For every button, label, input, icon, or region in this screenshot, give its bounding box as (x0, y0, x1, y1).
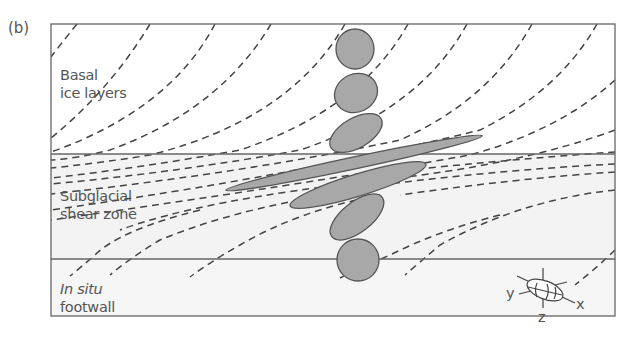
basal-ice-label-line1: Basal (60, 66, 126, 84)
axis-label-z: z (538, 308, 545, 326)
shear-zone-label-line2: shear zone (60, 205, 137, 223)
clast-1 (336, 29, 374, 69)
axis-label-y: y (506, 284, 514, 302)
shear-zone-label-line1: Subglacial (60, 187, 137, 205)
footwall-label-line1: In situ (60, 280, 115, 298)
basal-ice-label: Basal ice layers (60, 66, 126, 102)
footwall-label: In situ footwall (60, 280, 115, 316)
footwall-label-line2: footwall (60, 298, 115, 316)
axis-label-x: x (576, 295, 584, 313)
basal-ice-label-line2: ice layers (60, 84, 126, 102)
shear-zone-label: Subglacial shear zone (60, 187, 137, 223)
clast-7 (337, 239, 379, 281)
